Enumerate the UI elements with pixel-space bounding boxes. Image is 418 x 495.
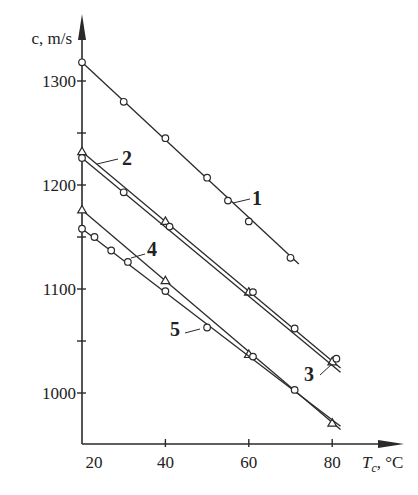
circle-marker-icon xyxy=(91,234,98,241)
series-line xyxy=(82,152,341,368)
curve-label-5: 5 xyxy=(170,318,180,340)
curve-label-4: 4 xyxy=(147,238,157,260)
x-axis-title: Tc, °C xyxy=(362,453,403,475)
circle-marker-icon xyxy=(108,247,115,254)
circle-marker-icon xyxy=(79,155,86,162)
circle-marker-icon xyxy=(204,324,211,331)
y-tick-label: 1000 xyxy=(42,384,76,403)
y-tick-label: 1200 xyxy=(42,176,76,195)
circle-marker-icon xyxy=(250,289,257,296)
series-line xyxy=(82,229,341,427)
x-tick-label: 60 xyxy=(240,453,257,472)
triangle-marker-icon xyxy=(161,276,170,284)
y-tick-label: 1100 xyxy=(43,280,76,299)
curve-label-1: 1 xyxy=(252,187,262,209)
triangle-marker-icon xyxy=(78,205,87,213)
x-tick-label: 20 xyxy=(86,453,103,472)
curve-label-3: 3 xyxy=(304,363,314,385)
labels-layer: 12345 xyxy=(97,147,332,385)
x-tick-label: 80 xyxy=(324,453,341,472)
triangle-marker-icon xyxy=(78,147,87,155)
y-axis-title: c, m/s xyxy=(31,29,72,48)
x-tick-label: 40 xyxy=(157,453,174,472)
circle-marker-icon xyxy=(79,225,86,232)
circle-marker-icon xyxy=(162,135,169,142)
circle-marker-icon xyxy=(166,223,173,230)
curve-label-2: 2 xyxy=(122,147,132,169)
axes: 100011001200130020406080c, m/sTc, °C xyxy=(31,14,404,475)
chart: 100011001200130020406080c, m/sTc, °C 123… xyxy=(0,0,418,495)
circle-marker-icon xyxy=(79,59,86,66)
label-leader-line xyxy=(185,329,200,333)
series-line xyxy=(82,62,299,264)
series-5 xyxy=(79,225,341,426)
circle-marker-icon xyxy=(204,174,211,181)
circle-marker-icon xyxy=(125,259,132,266)
circle-marker-icon xyxy=(120,189,127,196)
x-axis-arrow-icon xyxy=(378,440,404,448)
circle-marker-icon xyxy=(120,99,127,106)
series-3 xyxy=(79,155,341,373)
label-leader-line xyxy=(320,364,332,375)
circle-marker-icon xyxy=(291,387,298,394)
series-layer xyxy=(78,59,341,429)
label-leader-line xyxy=(233,199,250,203)
label-leader-line xyxy=(97,159,118,164)
circle-marker-icon xyxy=(246,218,253,225)
y-axis-arrow-icon xyxy=(78,14,86,40)
circle-marker-icon xyxy=(225,197,232,204)
circle-marker-icon xyxy=(250,353,257,360)
y-tick-label: 1300 xyxy=(42,72,76,91)
circle-marker-icon xyxy=(287,254,294,261)
circle-marker-icon xyxy=(333,355,340,362)
circle-marker-icon xyxy=(162,288,169,295)
series-1 xyxy=(79,59,299,264)
circle-marker-icon xyxy=(291,325,298,332)
